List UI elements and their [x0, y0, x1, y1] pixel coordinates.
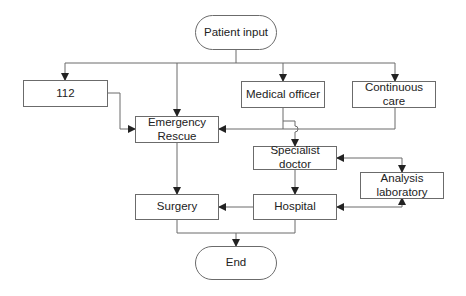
node-patient-input: Patient input	[195, 15, 277, 50]
edge-continuous-emergency	[219, 108, 395, 129]
node-emergency-rescue: Emergency Rescue	[135, 116, 219, 143]
edge-merge-end	[177, 220, 295, 233]
edge-medical-specialist	[283, 121, 298, 146]
node-hospital: Hospital	[253, 194, 337, 220]
node-analysis-laboratory: Analysis laboratory	[360, 172, 444, 199]
node-continuous-care: Continuous care	[352, 81, 436, 108]
node-specialist-doctor: Specialist doctor	[253, 146, 337, 170]
node-medical-officer: Medical officer	[241, 81, 325, 108]
flowchart: Patient input 112 Emergency Rescue Medic…	[0, 0, 466, 296]
node-112: 112	[23, 80, 108, 107]
edge-112-emergency	[108, 93, 135, 129]
node-end: End	[195, 246, 277, 280]
node-surgery: Surgery	[135, 194, 219, 220]
